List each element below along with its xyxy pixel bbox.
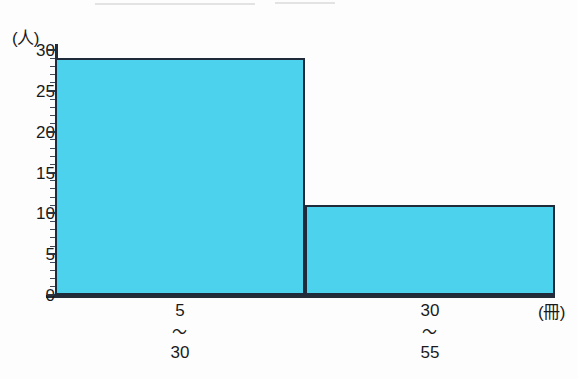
y-axis-major-tick <box>47 49 55 51</box>
x-axis-category-labels: 5〜3030〜55 <box>55 300 555 375</box>
category-range-start: 5 <box>171 300 190 322</box>
category-range-end: 30 <box>171 342 190 364</box>
y-axis-major-tick <box>47 253 55 255</box>
category-range-start: 30 <box>421 300 440 322</box>
histogram-bar <box>305 205 555 295</box>
category-range-tilde: 〜 <box>421 322 440 342</box>
y-axis-major-tick <box>47 90 55 92</box>
x-axis-category-label: 5〜30 <box>171 300 190 365</box>
histogram-bar <box>55 58 305 295</box>
plot-area: 051015202530 <box>55 50 555 295</box>
histogram-figure: (人) (冊) 051015202530 5〜3030〜55 <box>0 0 578 379</box>
x-axis-line <box>46 295 555 298</box>
y-axis-major-tick <box>47 131 55 133</box>
y-axis-major-tick <box>47 172 55 174</box>
y-axis-major-tick <box>47 294 55 296</box>
category-range-end: 55 <box>421 342 440 364</box>
scan-artifact <box>95 3 255 5</box>
y-axis-major-tick <box>47 212 55 214</box>
scan-artifact-secondary <box>275 2 335 4</box>
x-axis-category-label: 30〜55 <box>421 300 440 365</box>
category-range-tilde: 〜 <box>171 322 190 342</box>
